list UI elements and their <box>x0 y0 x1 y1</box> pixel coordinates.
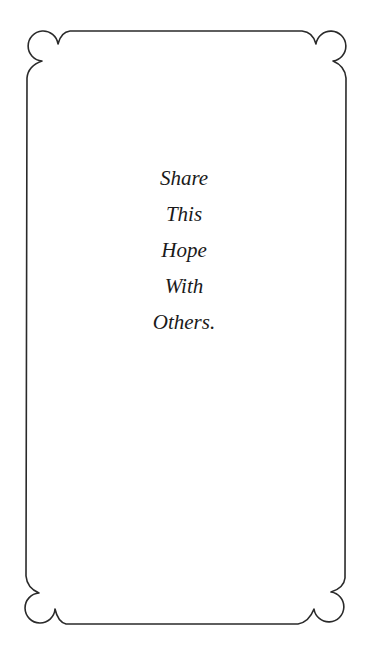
card-message: Share This Hope With Others. <box>0 160 368 340</box>
message-line-2: This <box>0 196 368 232</box>
message-line-3: Hope <box>0 232 368 268</box>
message-line-1: Share <box>0 160 368 196</box>
message-line-5: Others. <box>0 304 368 340</box>
message-line-4: With <box>0 268 368 304</box>
